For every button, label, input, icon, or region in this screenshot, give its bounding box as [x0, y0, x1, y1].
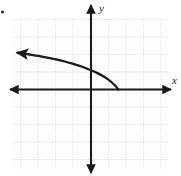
- y-axis-label: y: [98, 2, 104, 14]
- corner-mark-icon: [1, 10, 4, 13]
- graph-screenshot: y x: [0, 0, 181, 176]
- coordinate-plane-figure: y x: [0, 0, 181, 176]
- x-axis-label: x: [171, 74, 177, 86]
